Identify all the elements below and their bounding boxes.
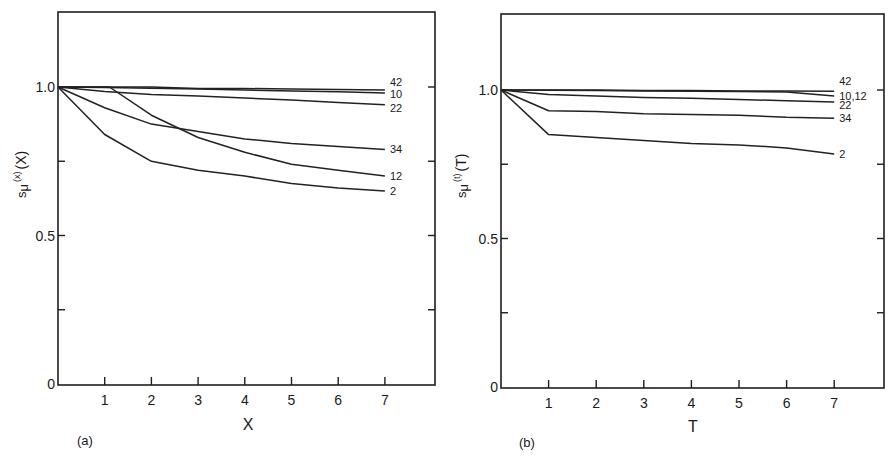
- x-tick-label: 2: [148, 392, 156, 408]
- y-tick-label: 0: [490, 379, 498, 395]
- figure: 123456700.51.0 42102234122 X (a) sμ(x)(X…: [0, 0, 891, 457]
- curve-labels: 42102234122: [390, 76, 402, 197]
- x-tick-label: 3: [640, 395, 648, 411]
- ylabel-arg: (T): [453, 154, 469, 172]
- ylabel-arg: (X): [13, 151, 29, 170]
- curve-label: 22: [839, 99, 851, 111]
- y-tick-label: 0.5: [36, 228, 56, 244]
- y-tick-label: 1.0: [479, 82, 499, 98]
- x-tick-label: 6: [783, 395, 791, 411]
- x-tick-label: 1: [545, 395, 553, 411]
- ylabel-sub: μ: [456, 184, 471, 192]
- x-tick-label: 1: [101, 392, 109, 408]
- x-tick-label: 7: [381, 392, 389, 408]
- curve-label: 42: [390, 76, 402, 88]
- x-tick-label: 4: [241, 392, 249, 408]
- panel-a: 123456700.51.0 42102234122 X (a) sμ(x)(X…: [12, 12, 435, 448]
- plot-frame: [501, 14, 884, 388]
- y-tick-label: 0: [47, 376, 55, 392]
- x-axis-title: X: [243, 416, 254, 433]
- x-tick-label: 3: [194, 392, 202, 408]
- plot-frame: [58, 12, 435, 385]
- curve-label: 34: [839, 112, 851, 124]
- curves: [58, 87, 385, 191]
- panel-b: 123456700.51.0 4210,1222342 T (b) sμ(t)(…: [452, 14, 884, 450]
- curve-labels: 4210,1222342: [839, 75, 867, 160]
- tick-labels: 123456700.51.0: [479, 82, 839, 411]
- tick-marks: [58, 87, 435, 385]
- y-axis-title: sμ(x)(X): [12, 151, 31, 198]
- curve-label: 10: [390, 88, 402, 100]
- panel-tag: (a): [77, 433, 93, 448]
- x-tick-label: 4: [688, 395, 696, 411]
- tick-labels: 123456700.51.0: [36, 79, 389, 408]
- x-tick-label: 7: [830, 395, 838, 411]
- x-axis-title: T: [688, 418, 698, 435]
- y-tick-label: 0.5: [479, 231, 499, 247]
- curve-label: 22: [390, 102, 402, 114]
- curve-label: 42: [839, 75, 851, 87]
- curves: [501, 90, 834, 154]
- curve-label: 34: [390, 143, 402, 155]
- x-tick-label: 5: [735, 395, 743, 411]
- panel-tag: (b): [519, 435, 535, 450]
- ylabel-sup: (t): [452, 174, 462, 183]
- curve-2: [501, 90, 834, 154]
- curve-label: 2: [839, 148, 845, 160]
- y-tick-label: 1.0: [36, 79, 56, 95]
- x-tick-label: 5: [288, 392, 296, 408]
- curve-label: 2: [390, 185, 396, 197]
- curve-label: 12: [390, 170, 402, 182]
- ylabel-sup: (x): [12, 172, 22, 183]
- curve-12: [58, 87, 385, 176]
- ylabel-sub: μ: [16, 184, 31, 192]
- y-axis-title: sμ(t)(T): [452, 154, 471, 198]
- x-tick-label: 2: [592, 395, 600, 411]
- x-tick-label: 6: [334, 392, 342, 408]
